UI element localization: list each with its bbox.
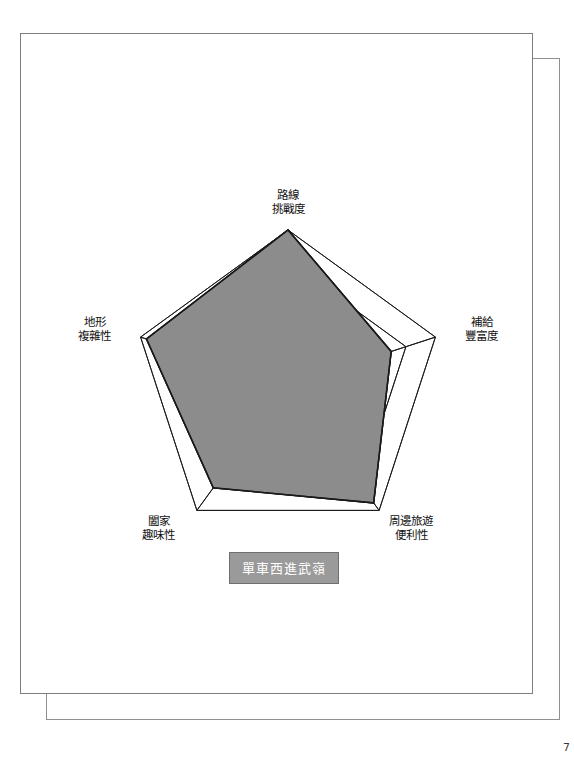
axis-label-line: 複雜性 [65, 329, 125, 343]
axis-label-line: 豐富度 [465, 329, 498, 343]
axis-label-route-challenge: 路線挑戰度 [228, 188, 348, 216]
axis-label-line: 補給 [465, 315, 498, 329]
radar-data-polygon[interactable] [146, 230, 391, 503]
axis-label-line: 地形 [65, 315, 125, 329]
axis-label-supply-abundance: 補給豐富度 [465, 315, 498, 343]
axis-label-line: 闔家 [129, 514, 189, 528]
axis-label-line: 挑戰度 [228, 202, 348, 216]
axis-label-family-fun: 闔家趣味性 [129, 514, 189, 542]
axis-label-terrain-complexity: 地形複雜性 [65, 315, 125, 343]
radar-chart-svg [20, 33, 533, 694]
radar-chart: 路線挑戰度 補給豐富度 周邊旅遊便利性 闔家趣味性 地形複雜性 單車西進武嶺 [20, 33, 533, 694]
axis-label-line: 便利性 [389, 528, 433, 542]
page-number: 7 [563, 741, 570, 754]
axis-label-travel-convenience: 周邊旅遊便利性 [389, 514, 433, 542]
axis-label-line: 趣味性 [129, 528, 189, 542]
radar-series-polygon[interactable] [146, 230, 391, 503]
legend-series-label[interactable]: 單車西進武嶺 [229, 552, 339, 584]
axis-label-line: 路線 [228, 188, 348, 202]
axis-label-line: 周邊旅遊 [389, 514, 433, 528]
